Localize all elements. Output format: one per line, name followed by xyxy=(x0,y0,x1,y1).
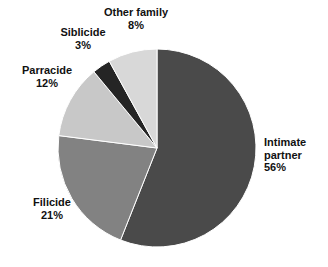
slice-label-intimate-partner-name-line1: Intimate xyxy=(264,136,326,149)
slice-label-filicide-value: 21% xyxy=(16,209,88,222)
slice-label-intimate-partner-name-line2: partner xyxy=(264,149,326,162)
slice-label-siblicide: Siblicide 3% xyxy=(44,26,122,51)
slice-label-filicide-name: Filicide xyxy=(16,196,88,209)
slice-label-parracide-name: Parracide xyxy=(6,64,88,77)
slice-label-parracide: Parracide 12% xyxy=(6,64,88,89)
slice-label-siblicide-name: Siblicide xyxy=(44,26,122,39)
slice-label-filicide: Filicide 21% xyxy=(16,196,88,221)
slice-label-intimate-partner: Intimate partner 56% xyxy=(264,136,326,174)
slice-label-siblicide-value: 3% xyxy=(44,39,122,52)
slice-label-other-family-name: Other family xyxy=(88,6,184,19)
pie-chart: Other family 8% Siblicide 3% Parracide 1… xyxy=(0,0,328,267)
slice-label-parracide-value: 12% xyxy=(6,77,88,90)
slice-label-intimate-partner-value: 56% xyxy=(264,161,326,174)
